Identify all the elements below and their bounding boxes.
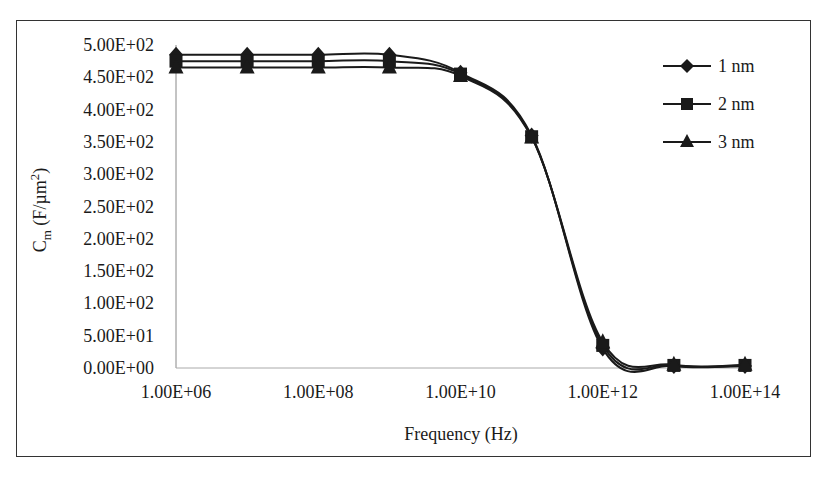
y-tick-label: 2.50E+02 xyxy=(83,197,154,217)
legend-label: 1 nm xyxy=(718,56,755,76)
svg-text:Cm (F/µm2): Cm (F/µm2) xyxy=(27,168,54,253)
x-tick-label: 1.00E+06 xyxy=(141,382,212,402)
y-axis-title-close: ) xyxy=(30,168,51,174)
y-tick-label: 1.50E+02 xyxy=(83,261,154,281)
series-1nm xyxy=(169,47,752,374)
legend-item-2nm: 2 nm xyxy=(663,94,755,114)
x-tick-label: 1.00E+10 xyxy=(425,382,496,402)
x-axis-title: Frequency (Hz) xyxy=(404,424,517,445)
x-axis-ticks: 1.00E+061.00E+081.00E+101.00E+121.00E+14 xyxy=(141,382,781,402)
series-3nm xyxy=(169,59,753,371)
legend-label: 3 nm xyxy=(718,132,755,152)
square-marker-icon xyxy=(681,98,693,110)
chart: 0.00E+005.00E+011.00E+021.50E+022.00E+02… xyxy=(0,0,825,481)
y-axis-title-sub: m xyxy=(39,230,54,240)
y-tick-label: 4.00E+02 xyxy=(83,100,154,120)
diamond-marker-icon xyxy=(680,59,694,73)
y-tick-label: 1.00E+02 xyxy=(83,293,154,313)
x-tick-label: 1.00E+12 xyxy=(567,382,638,402)
y-axis-title-main: C xyxy=(30,240,50,252)
legend-label: 2 nm xyxy=(718,94,755,114)
y-tick-label: 3.00E+02 xyxy=(83,164,154,184)
y-tick-label: 0.00E+00 xyxy=(83,358,154,378)
y-tick-label: 2.00E+02 xyxy=(83,229,154,249)
series-2nm xyxy=(170,55,752,372)
x-tick-label: 1.00E+08 xyxy=(283,382,354,402)
legend: 1 nm 2 nm 3 nm xyxy=(663,56,755,152)
y-tick-label: 5.00E+01 xyxy=(83,326,154,346)
y-axis-title-rest: (F/µm xyxy=(30,180,51,230)
triangle-marker-icon xyxy=(680,134,694,147)
y-tick-label: 5.00E+02 xyxy=(83,35,154,55)
y-axis-ticks: 0.00E+005.00E+011.00E+021.50E+022.00E+02… xyxy=(83,35,154,378)
legend-item-3nm: 3 nm xyxy=(663,132,755,152)
x-tick-label: 1.00E+14 xyxy=(710,382,781,402)
y-tick-label: 3.50E+02 xyxy=(83,132,154,152)
legend-item-1nm: 1 nm xyxy=(663,56,755,76)
plot-series xyxy=(169,47,753,374)
y-axis-title: Cm (F/µm2) xyxy=(27,168,54,253)
y-tick-label: 4.50E+02 xyxy=(83,67,154,87)
